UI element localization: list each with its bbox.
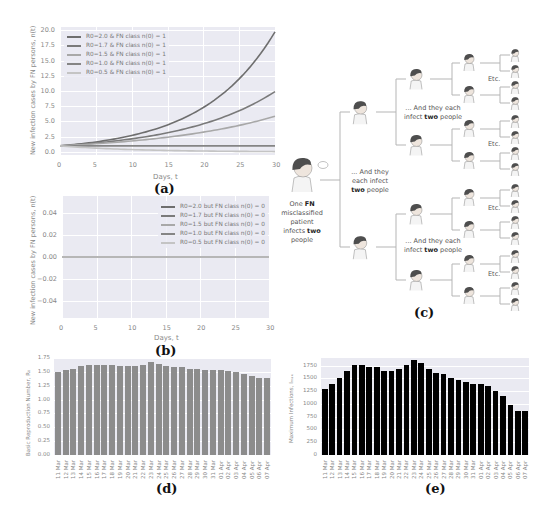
level4-person-icon <box>511 232 519 245</box>
panel-label-e: (e) <box>425 481 446 496</box>
level3-person-icon <box>464 189 474 206</box>
y-tick-label: −0.04 <box>37 297 57 305</box>
x-tick-label-date: 11 Mar <box>322 460 328 479</box>
y-axis-label-d: Basic Reproduction Number, R₀ <box>25 370 31 456</box>
x-tick-label: 15 <box>163 324 171 332</box>
level1-person-icon <box>353 236 367 259</box>
x-tick-label: 25 <box>232 324 240 332</box>
x-tick-label-date: 12 Mar <box>63 460 69 479</box>
level4-person-icon <box>511 97 519 110</box>
x-tick-label: 25 <box>236 161 244 169</box>
y-tick-label: 12.5 <box>41 72 55 80</box>
x-tick-label-date: 31 Mar <box>470 460 476 479</box>
level3-person-icon <box>464 287 474 304</box>
bar <box>418 363 424 455</box>
x-tick-label: 20 <box>197 324 205 332</box>
x-tick-label-date: 17 Mar <box>101 460 107 479</box>
bar <box>94 365 100 455</box>
bar <box>264 378 270 455</box>
grid-line-horizontal <box>321 455 529 456</box>
level4-person-icon <box>511 282 519 295</box>
bar <box>478 384 484 455</box>
x-tick-label: 15 <box>165 161 173 169</box>
x-tick-label: 10 <box>128 324 136 332</box>
x-tick-label-date: 19 Mar <box>117 460 123 479</box>
x-tick-label: 30 <box>266 324 274 332</box>
x-tick-label-date: 05 Apr <box>249 461 255 479</box>
y-tick-label: 0 <box>314 451 318 457</box>
x-tick-label: 0 <box>59 324 63 332</box>
level3-person-icon <box>464 255 474 272</box>
bar <box>148 362 154 455</box>
level2-person-icon <box>410 204 422 224</box>
level3-person-icon <box>464 221 474 238</box>
bar <box>381 371 387 455</box>
x-tick-label-date: 28 Mar <box>448 460 454 479</box>
x-tick-label-date: 05 Apr <box>507 461 513 479</box>
bar <box>132 366 138 455</box>
level4-person-icon <box>511 147 519 160</box>
x-tick-label-date: 25 Mar <box>163 460 169 479</box>
x-tick-label: 5 <box>94 324 98 332</box>
panel-label-c: (c) <box>414 305 434 320</box>
bar <box>163 366 169 455</box>
x-tick-label-date: 13 Mar <box>337 460 343 479</box>
bar <box>322 389 328 455</box>
x-tick-label-date: 03 Apr <box>233 461 239 479</box>
level4-person-icon <box>511 65 519 78</box>
y-tick-label: 0.02 <box>43 231 57 239</box>
y-tick-label: 15.0 <box>41 57 55 65</box>
y-tick-label: 1.00 <box>38 396 50 402</box>
level4-person-icon <box>511 184 519 197</box>
bar <box>485 386 491 455</box>
x-tick-label-date: 18 Mar <box>374 460 380 479</box>
level4-person-icon <box>511 200 519 213</box>
bar <box>117 366 123 455</box>
bar <box>426 369 432 455</box>
bar <box>522 411 528 455</box>
bar <box>470 384 476 455</box>
level4-person-icon <box>511 49 519 62</box>
bar <box>493 391 499 455</box>
x-tick-label-date: 18 Mar <box>109 460 115 479</box>
y-tick-label: 0.00 <box>43 253 57 261</box>
bar <box>202 370 208 455</box>
x-tick-label-date: 27 Mar <box>179 460 185 479</box>
x-tick-label: 10 <box>129 161 137 169</box>
level3-person-icon <box>464 152 474 169</box>
grid-line-horizontal <box>54 358 271 359</box>
x-tick-label-date: 07 Apr <box>522 461 528 479</box>
x-tick-label-date: 22 Mar <box>403 460 409 479</box>
root-caption: One FN misclassified patient infects two… <box>280 200 324 245</box>
bar <box>396 369 402 455</box>
y-tick-label: 1500 <box>303 374 317 380</box>
x-tick-label: 0 <box>57 161 61 169</box>
x-tick-label-date: 28 Mar <box>187 460 193 479</box>
x-tick-label-date: 14 Mar <box>78 460 84 479</box>
y-tick-label: 10.0 <box>41 87 55 95</box>
bar <box>78 366 84 455</box>
x-tick-label-date: 20 Mar <box>389 460 395 479</box>
grid-line-horizontal <box>54 455 271 456</box>
level2-caption-bottom: ... And they each infect two people <box>400 237 466 255</box>
level4-person-icon <box>511 163 519 176</box>
y-tick-label: 20.0 <box>41 26 55 34</box>
bar <box>500 396 506 455</box>
x-tick-label-date: 15 Mar <box>86 460 92 479</box>
bar <box>233 372 239 455</box>
y-tick-label: 0.0 <box>45 148 55 156</box>
bar <box>55 372 61 455</box>
plot-area-d <box>54 358 271 455</box>
bar <box>448 378 454 455</box>
bar <box>433 373 439 455</box>
x-tick-label-date: 20 Mar <box>125 460 131 479</box>
x-tick-label-date: 24 Mar <box>156 460 162 479</box>
x-tick-label-date: 29 Mar <box>455 460 461 479</box>
bar <box>63 370 69 455</box>
level4-person-icon <box>511 81 519 94</box>
x-tick-label-date: 23 Mar <box>148 460 154 479</box>
level3-person-icon <box>464 120 474 137</box>
y-tick-label: 1.75 <box>38 354 50 360</box>
bar <box>352 365 358 455</box>
bar <box>210 370 216 455</box>
